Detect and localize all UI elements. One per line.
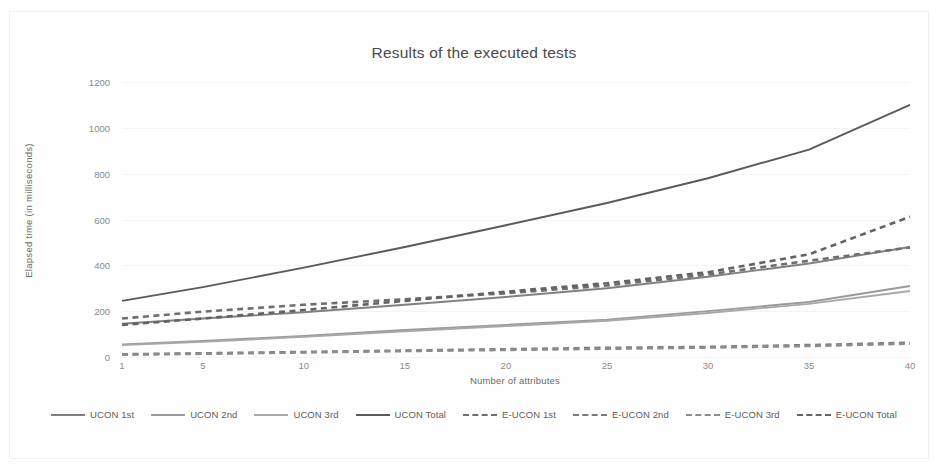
legend-item[interactable]: E-UCON 2nd (573, 409, 669, 420)
x-tick-label: 5 (183, 360, 223, 371)
legend-swatch-icon (151, 414, 185, 416)
gridline (122, 174, 910, 175)
legend-item[interactable]: UCON 1st (51, 409, 134, 420)
legend-label: UCON Total (395, 409, 447, 420)
legend-label: UCON 3rd (293, 409, 338, 420)
x-axis-label: Number of attributes (120, 375, 910, 386)
x-tick-label: 20 (486, 360, 526, 371)
y-axis-label: Elapsed time (in milliseconds) (23, 121, 34, 301)
series-lines (0, 0, 948, 474)
gridline (122, 311, 910, 312)
legend-swatch-icon (573, 414, 607, 416)
legend-item[interactable]: UCON 3rd (254, 409, 338, 420)
gridline (122, 357, 910, 358)
x-tick-label: 1 (102, 360, 142, 371)
legend-label: E-UCON Total (836, 409, 897, 420)
legend-label: UCON 1st (90, 409, 134, 420)
legend-item[interactable]: E-UCON Total (797, 409, 897, 420)
y-axis-ticks: 020040060080010001200 (68, 0, 110, 474)
legend-swatch-icon (51, 414, 85, 416)
x-tick-label: 30 (688, 360, 728, 371)
x-tick-label: 10 (284, 360, 324, 371)
x-tick-label: 15 (385, 360, 425, 371)
legend-item[interactable]: UCON Total (356, 409, 447, 420)
legend-swatch-icon (463, 414, 497, 416)
legend-swatch-icon (254, 414, 288, 416)
legend-label: E-UCON 1st (502, 409, 556, 420)
gridline (122, 220, 910, 221)
x-tick-label: 25 (587, 360, 627, 371)
series-line (122, 343, 910, 354)
y-tick-label: 200 (70, 306, 110, 317)
chart-legend: UCON 1stUCON 2ndUCON 3rdUCON TotalE-UCON… (0, 409, 948, 420)
y-tick-label: 400 (70, 260, 110, 271)
legend-label: UCON 2nd (190, 409, 237, 420)
series-line (122, 105, 910, 301)
legend-label: E-UCON 2nd (612, 409, 669, 420)
legend-swatch-icon (686, 414, 720, 416)
series-line (122, 291, 910, 345)
legend-label: E-UCON 3rd (725, 409, 780, 420)
legend-item[interactable]: UCON 2nd (151, 409, 237, 420)
series-line (122, 217, 910, 325)
series-line (122, 247, 910, 318)
legend-swatch-icon (356, 414, 390, 416)
legend-item[interactable]: E-UCON 3rd (686, 409, 780, 420)
series-line (122, 344, 910, 355)
y-tick-label: 1200 (70, 77, 110, 88)
legend-item[interactable]: E-UCON 1st (463, 409, 556, 420)
y-tick-label: 800 (70, 168, 110, 179)
y-tick-label: 1000 (70, 122, 110, 133)
legend-swatch-icon (797, 414, 831, 416)
gridline (122, 265, 910, 266)
gridline (122, 128, 910, 129)
gridline (122, 82, 910, 83)
series-line (122, 286, 910, 344)
y-tick-label: 600 (70, 214, 110, 225)
plot-area: 020040060080010001200 1510152025303540 E… (0, 0, 948, 474)
series-line (122, 247, 910, 324)
x-tick-label: 35 (789, 360, 829, 371)
x-tick-label: 40 (890, 360, 930, 371)
chart-figure: Results of the executed tests 0200400600… (0, 0, 948, 474)
